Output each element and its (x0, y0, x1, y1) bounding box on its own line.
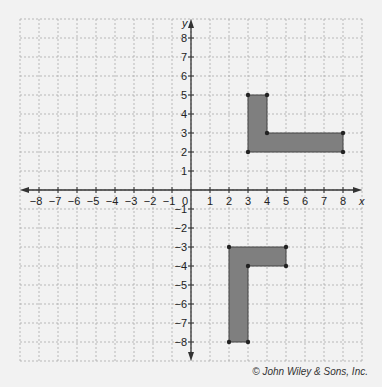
x-tick-label: −4 (106, 195, 119, 207)
vertex-point (246, 340, 250, 344)
x-tick-label: 7 (321, 195, 327, 207)
x-tick-label: −6 (68, 195, 81, 207)
copyright-credit: © John Wiley & Sons, Inc. (252, 366, 368, 377)
x-axis-label: x (358, 195, 365, 207)
vertex-point (265, 93, 269, 97)
x-tick-label: 6 (302, 195, 308, 207)
x-tick-label: 3 (245, 195, 251, 207)
vertex-point (341, 131, 345, 135)
arrow-down-icon (188, 352, 194, 361)
y-tick-label: −5 (174, 279, 187, 291)
vertex-point (246, 150, 250, 154)
y-tick-label: 5 (181, 89, 187, 101)
coordinate-plane: −8−7−6−5−4−3−2−11234567887654321−1−2−3−4… (0, 0, 382, 387)
y-tick-label: 1 (181, 165, 187, 177)
x-tick-label: −3 (125, 195, 138, 207)
y-tick-label: 6 (181, 70, 187, 82)
x-tick-label: −7 (49, 195, 62, 207)
vertex-point (284, 245, 288, 249)
y-tick-label: −4 (174, 260, 187, 272)
y-tick-label: −8 (174, 336, 187, 348)
y-tick-label: −6 (174, 298, 187, 310)
y-tick-label: −3 (174, 241, 187, 253)
y-tick-label: −2 (174, 222, 187, 234)
vertex-point (246, 264, 250, 268)
x-tick-label: −8 (30, 195, 43, 207)
vertex-point (227, 340, 231, 344)
x-tick-label: 2 (226, 195, 232, 207)
y-tick-label: 7 (181, 51, 187, 63)
arrow-right-icon (353, 187, 362, 193)
x-tick-label: 8 (340, 195, 346, 207)
lower-L-shape (229, 247, 286, 342)
vertex-point (265, 131, 269, 135)
x-tick-label: 5 (283, 195, 289, 207)
origin-label: 0 (182, 195, 188, 207)
x-tick-label: −5 (87, 195, 100, 207)
x-tick-label: 4 (264, 195, 270, 207)
vertex-point (246, 93, 250, 97)
y-tick-label: 2 (181, 146, 187, 158)
vertex-point (341, 150, 345, 154)
y-tick-label: 8 (181, 32, 187, 44)
x-tick-label: 1 (207, 195, 213, 207)
y-tick-label: 3 (181, 127, 187, 139)
x-tick-label: −1 (163, 195, 176, 207)
x-tick-label: −2 (144, 195, 157, 207)
y-tick-label: 4 (181, 108, 187, 120)
vertex-point (227, 245, 231, 249)
vertex-point (284, 264, 288, 268)
y-tick-label: −7 (174, 317, 187, 329)
arrow-up-icon (188, 19, 194, 28)
y-axis-label: y (181, 17, 189, 29)
arrow-left-icon (20, 187, 29, 193)
upper-L-shape (248, 95, 343, 152)
